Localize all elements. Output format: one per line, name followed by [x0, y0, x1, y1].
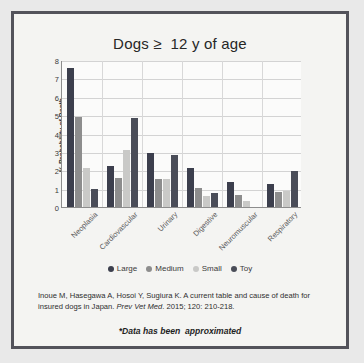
- bar: [235, 195, 242, 207]
- citation-part2: . 2015; 120: 210-218.: [162, 302, 234, 311]
- legend-swatch-large-icon: [108, 266, 114, 272]
- legend-swatch-medium-icon: [146, 266, 152, 272]
- bar: [147, 153, 154, 207]
- legend-label: Toy: [240, 264, 252, 273]
- bar: [275, 192, 282, 207]
- bar: [123, 150, 130, 207]
- x-axis-label-text: Neoplasia: [69, 210, 99, 240]
- x-axis-label-neoplasia: Neoplasia: [69, 210, 99, 240]
- plot-canvas: [61, 61, 301, 208]
- bar: [203, 196, 210, 207]
- gridline-vertical: [262, 61, 263, 207]
- chart-plot-area: % Probability of Death 012345678: [61, 61, 301, 208]
- y-axis-tick-7: 7: [55, 75, 59, 84]
- legend-item-small[interactable]: Small: [193, 264, 222, 273]
- bar: [243, 201, 250, 207]
- slide-panel: Dogs ≥ 12 y of age % Probability of Deat…: [14, 14, 346, 346]
- bar: [115, 178, 122, 207]
- bar: [131, 118, 138, 207]
- bar-group: [147, 61, 178, 207]
- y-axis-tick-4: 4: [55, 130, 59, 139]
- bar: [107, 166, 114, 207]
- legend-item-large[interactable]: Large: [108, 264, 137, 273]
- bar: [75, 117, 82, 207]
- y-axis-tick-1: 1: [55, 185, 59, 194]
- x-axis-label-text: Cardiovascular: [98, 210, 140, 252]
- bar: [283, 191, 290, 207]
- legend-label: Medium: [155, 264, 183, 273]
- bar: [291, 171, 298, 207]
- y-axis-tick-5: 5: [55, 112, 59, 121]
- citation-text: Inoue M, Hasegawa A, Hosoi Y, Sugiura K.…: [38, 290, 328, 312]
- y-axis-tick-2: 2: [55, 167, 59, 176]
- bar: [171, 155, 178, 207]
- x-axis-label-respiratory: Respiratory: [266, 210, 299, 243]
- x-axis-label-text: Digestive: [191, 210, 219, 238]
- x-axis-label-neuromuscular: Neuromuscular: [217, 210, 259, 252]
- x-axis-label-digestive: Digestive: [191, 210, 219, 238]
- bar: [67, 68, 74, 207]
- bar: [83, 168, 90, 207]
- bar: [227, 182, 234, 207]
- bar-group: [267, 61, 298, 207]
- bar-group: [107, 61, 138, 207]
- slide: Dogs ≥ 12 y of age % Probability of Deat…: [0, 0, 364, 363]
- bar: [155, 179, 162, 207]
- citation-journal: Prev Vet Med: [117, 302, 163, 311]
- y-axis-tick-6: 6: [55, 93, 59, 102]
- y-axis-tick-8: 8: [55, 57, 59, 66]
- legend-swatch-toy-icon: [231, 266, 237, 272]
- x-axis-label-urinary: Urinary: [156, 210, 179, 233]
- slide-frame: Dogs ≥ 12 y of age % Probability of Deat…: [11, 11, 349, 349]
- x-axis-labels: NeoplasiaCardiovascularUrinaryDigestiveN…: [61, 210, 301, 266]
- bar-group: [187, 61, 218, 207]
- x-axis-label-text: Urinary: [156, 210, 179, 233]
- legend-swatch-small-icon: [193, 266, 199, 272]
- bar: [91, 189, 98, 207]
- x-axis-label-cardiovascular: Cardiovascular: [98, 210, 140, 252]
- bar-group: [227, 61, 258, 207]
- gridline-vertical: [182, 61, 183, 207]
- footnote-text: *Data has been approximated: [14, 326, 346, 336]
- gridline-vertical: [222, 61, 223, 207]
- legend-label: Small: [202, 264, 222, 273]
- bar: [187, 168, 194, 208]
- x-axis-label-text: Respiratory: [266, 210, 299, 243]
- legend-item-medium[interactable]: Medium: [146, 264, 183, 273]
- bar: [195, 188, 202, 207]
- y-axis-tick-0: 0: [55, 204, 59, 213]
- gridline-vertical: [142, 61, 143, 207]
- y-axis-tick-3: 3: [55, 148, 59, 157]
- bar: [267, 184, 274, 207]
- bar: [211, 193, 218, 207]
- gridline-vertical: [102, 61, 103, 207]
- y-axis-ticks: 012345678: [47, 61, 59, 208]
- chart-title: Dogs ≥ 12 y of age: [14, 35, 346, 52]
- chart-legend: LargeMediumSmallToy: [14, 264, 346, 273]
- bar: [163, 179, 170, 207]
- x-axis-label-text: Neuromuscular: [217, 210, 259, 252]
- bar-group: [67, 61, 98, 207]
- legend-label: Large: [117, 264, 137, 273]
- legend-item-toy[interactable]: Toy: [231, 264, 252, 273]
